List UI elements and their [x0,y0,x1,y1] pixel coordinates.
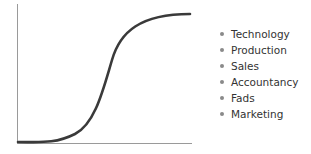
legend-label: Production [231,44,287,56]
legend-item-fads: Fads [218,90,298,106]
bullet-icon [220,32,224,36]
legend-item-technology: Technology [218,26,298,42]
bullet-icon [220,112,224,116]
s-curve-line [18,14,190,142]
legend-item-accountancy: Accountancy [218,74,298,90]
legend-item-sales: Sales [218,58,298,74]
legend-label: Fads [231,92,255,104]
legend-label: Accountancy [231,76,298,88]
bullet-icon [220,80,224,84]
legend-item-production: Production [218,42,298,58]
legend-label: Technology [231,28,290,40]
legend-item-marketing: Marketing [218,106,298,122]
bullet-icon [220,64,224,68]
bullet-icon [220,48,224,52]
legend-label: Marketing [231,108,283,120]
legend-label: Sales [231,60,259,72]
bullet-icon [220,96,224,100]
legend: Technology Production Sales Accountancy … [218,26,298,122]
s-curve-chart [0,0,200,154]
